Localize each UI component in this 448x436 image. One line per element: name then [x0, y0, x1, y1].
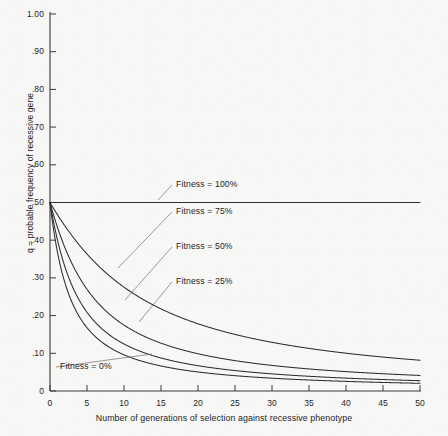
x-tick-label: 20 — [184, 398, 212, 408]
x-tick-label: 10 — [110, 398, 138, 408]
y-tick-label: 0 — [8, 386, 44, 396]
y-tick-label: .30 — [8, 272, 44, 282]
curve-label: Fitness = 75% — [176, 206, 233, 216]
curves-group — [50, 203, 420, 384]
x-tick-label: 50 — [406, 398, 434, 408]
x-tick-label: 40 — [332, 398, 360, 408]
curve-label: Fitness = 25% — [176, 276, 233, 286]
x-tick-label: 30 — [258, 398, 286, 408]
y-tick-label: 1.00 — [8, 9, 44, 19]
x-tick-label: 45 — [369, 398, 397, 408]
curve-0.75 — [50, 203, 420, 361]
leader-line — [139, 282, 172, 322]
curve-0 — [50, 203, 420, 384]
x-tick-label: 0 — [36, 398, 64, 408]
curve-label: Fitness = 0% — [60, 361, 112, 371]
leader-line — [158, 185, 172, 200]
curve-label: Fitness = 50% — [176, 241, 233, 251]
x-axis-title: Number of generations of selection again… — [0, 413, 448, 423]
y-tick-label: .90 — [8, 46, 44, 56]
x-tick-label: 5 — [73, 398, 101, 408]
x-tick-label: 15 — [147, 398, 175, 408]
y-axis-title: q = probable frequency of recessive gene — [25, 73, 35, 273]
curve-label: Fitness = 100% — [176, 179, 238, 189]
leader-line — [118, 212, 172, 268]
y-tick-label: .10 — [8, 348, 44, 358]
y-tick-label: .20 — [8, 310, 44, 320]
x-tick-label: 25 — [221, 398, 249, 408]
curve-0.5 — [50, 203, 420, 376]
figure-container: 0.10.20.30.40.50.60.70.80.901.00 0510152… — [0, 0, 448, 436]
curve-0.25 — [50, 203, 420, 381]
leader-line — [125, 247, 172, 300]
leader-lines-group — [56, 185, 172, 367]
x-tick-label: 35 — [295, 398, 323, 408]
